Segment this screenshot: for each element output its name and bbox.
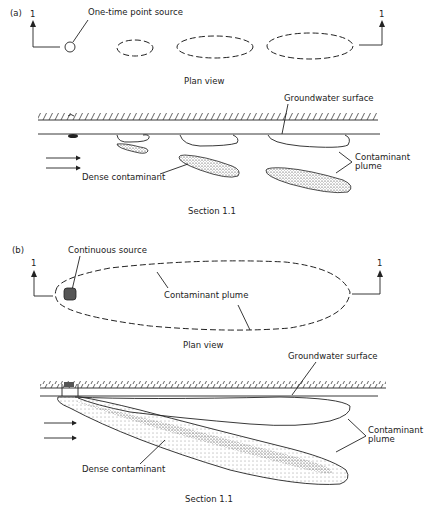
section-marker-left-b: 1 xyxy=(31,258,53,296)
svg-text:1: 1 xyxy=(379,9,384,19)
contaminant-plume-label-b-2: plume xyxy=(368,434,395,444)
upper-plume-3 xyxy=(268,135,349,147)
dense-plume-b-core xyxy=(72,400,333,473)
groundwater-surface-label-b: Groundwater surface xyxy=(288,351,378,361)
section-label-b: Section 1.1 xyxy=(185,494,233,504)
plan-plume-ellipse-1 xyxy=(117,40,153,56)
panel-b-label: (b) xyxy=(12,245,24,255)
plan-plume-ellipse-2 xyxy=(177,36,253,58)
point-source-icon xyxy=(65,42,75,52)
continuous-source-icon xyxy=(64,288,76,300)
source-leader-line xyxy=(73,20,88,42)
continuous-source-label: Continuous source xyxy=(68,245,147,255)
plan-plume-ellipse-3 xyxy=(267,33,353,59)
source-blob-a xyxy=(68,134,78,138)
svg-text:1: 1 xyxy=(377,258,382,268)
plan-view-label-b: Plan view xyxy=(183,340,223,350)
section-marker-right-a: 1 xyxy=(359,9,385,45)
panel-a-label: (a) xyxy=(10,8,22,18)
groundwater-surface-label-a: Groundwater surface xyxy=(284,93,374,103)
section-marker-left-a: 1 xyxy=(30,9,60,47)
contaminant-plume-plan-label: Contaminant plume xyxy=(164,290,248,300)
upper-plume-1 xyxy=(117,135,149,142)
section-label-a: Section 1.1 xyxy=(188,206,236,216)
panel-b: (b) Continuous source 1 1 Contaminant pl… xyxy=(12,245,424,504)
panel-a: (a) 1 1 One-time point source Plan view … xyxy=(10,7,411,216)
dense-plume-1 xyxy=(117,144,148,153)
ground-surface-hatch-b xyxy=(40,381,386,388)
one-time-source-label: One-time point source xyxy=(88,7,183,17)
svg-text:1: 1 xyxy=(30,9,35,19)
upper-plume-2 xyxy=(180,135,238,146)
dense-plume-2 xyxy=(179,155,239,177)
svg-text:1: 1 xyxy=(31,258,36,268)
contaminant-plume-diagram: (a) 1 1 One-time point source Plan view … xyxy=(0,0,429,512)
plan-view-label-a: Plan view xyxy=(184,76,224,86)
ground-surface-hatch-a xyxy=(38,113,378,120)
section-marker-right-b: 1 xyxy=(352,258,383,294)
dense-contaminant-label-b: Dense contaminant xyxy=(82,464,166,474)
contaminant-plume-label-a-2: plume xyxy=(355,161,382,171)
dense-contaminant-label-a: Dense contaminant xyxy=(82,172,166,182)
